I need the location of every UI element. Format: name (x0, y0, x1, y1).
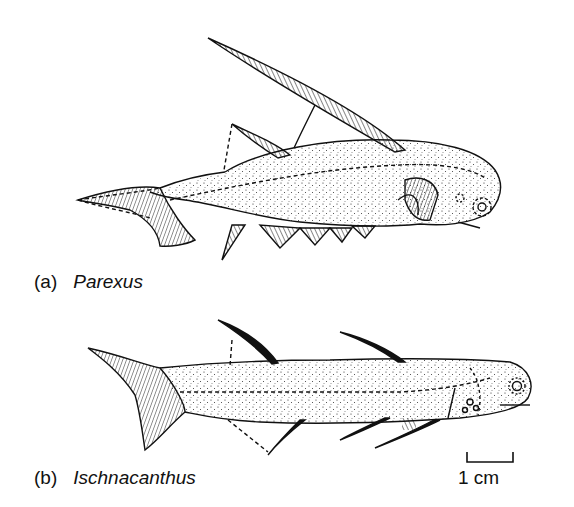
fish-illustrations (0, 0, 574, 507)
panel-label-a: (a)Parexus (34, 271, 143, 293)
panel-label-b: (b)Ischnacanthus (34, 467, 196, 489)
panel-letter-a: (a) (34, 271, 57, 292)
panel-letter-b: (b) (34, 467, 57, 488)
species-name-a: Parexus (73, 271, 143, 292)
parexus-body (150, 140, 500, 226)
parexus-drawing (78, 38, 500, 260)
scale-bar-label: 1 cm (458, 467, 499, 489)
scale-bar (467, 452, 513, 462)
dorsal-spine-large (208, 38, 405, 152)
ischnacanthus-body (160, 359, 531, 424)
ischnacanthus-drawing (88, 320, 531, 455)
tail-fin-b (88, 348, 185, 450)
species-name-b: Ischnacanthus (73, 467, 196, 488)
